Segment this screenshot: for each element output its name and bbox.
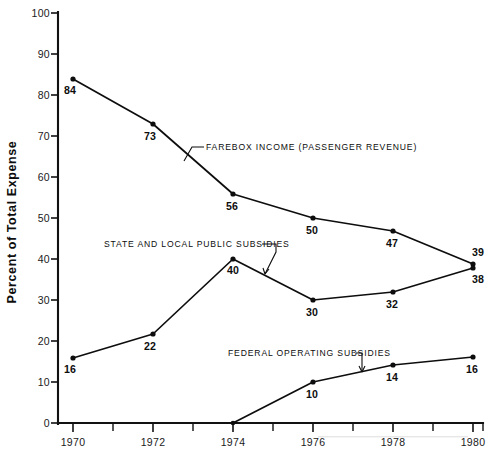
y-tick-label-20: 20 (38, 335, 50, 347)
x-tick-label-1970: 1970 (61, 436, 86, 448)
x-tick-label-1976: 1976 (301, 436, 326, 448)
y-tick-label-30: 30 (38, 294, 50, 306)
y-tick-label-10: 10 (38, 376, 50, 388)
data-point-label: 14 (386, 371, 398, 383)
farebox-annotation: FAREBOX INCOME (PASSENGER REVENUE) (184, 142, 417, 161)
data-point (230, 191, 235, 196)
data-point-label: 22 (144, 340, 156, 352)
data-point (150, 331, 155, 336)
data-point-label: 73 (144, 130, 156, 142)
data-point-label: 56 (226, 200, 238, 212)
line-chart: Percent of Total Expense 100 90 80 70 60… (0, 0, 494, 453)
data-point (231, 421, 236, 426)
y-tick-label-70: 70 (38, 130, 50, 142)
y-tick-label-90: 90 (38, 48, 50, 60)
state-local-subsidies-line (73, 259, 473, 358)
y-axis-title: Percent of Total Expense (5, 141, 19, 304)
y-tick-label-80: 80 (38, 89, 50, 101)
data-point-label: 30 (306, 306, 318, 318)
data-point (470, 265, 475, 270)
data-point-label: 50 (306, 224, 318, 236)
federal-subsidies-line (233, 357, 473, 423)
data-point (390, 362, 395, 367)
data-point (310, 215, 315, 220)
state-local-annotation: STATE AND LOCAL PUBLIC SUBSIDIES (104, 239, 290, 274)
x-tick-label-1974: 1974 (221, 436, 246, 448)
farebox-income-line (73, 79, 473, 264)
data-point (150, 121, 155, 126)
y-tick-label-100: 100 (32, 7, 50, 19)
data-point-label: 16 (64, 363, 76, 375)
farebox-annotation-label: FAREBOX INCOME (PASSENGER REVENUE) (206, 142, 417, 152)
data-point (70, 76, 75, 81)
data-point-label: 32 (386, 298, 398, 310)
x-axis-tick-labels: 1970 1972 1974 1976 1978 1980 (61, 436, 486, 448)
y-tick-label-0: 0 (44, 417, 50, 429)
data-point-label: 47 (386, 237, 398, 249)
data-point-label: 10 (306, 388, 318, 400)
data-point (70, 355, 75, 360)
data-point (310, 297, 315, 302)
x-tick-label-1972: 1972 (141, 436, 166, 448)
data-point-label: 38 (472, 273, 484, 285)
x-tick-label-1978: 1978 (381, 436, 406, 448)
data-point-label: 16 (466, 363, 478, 375)
series-federal-subsidies: 10 14 16 (231, 354, 478, 425)
federal-annotation: FEDERAL OPERATING SUBSIDIES (228, 348, 391, 372)
chart-container: Percent of Total Expense 100 90 80 70 60… (0, 0, 494, 453)
data-point (470, 354, 475, 359)
federal-annotation-label: FEDERAL OPERATING SUBSIDIES (228, 348, 391, 358)
data-point (230, 256, 235, 261)
data-point (390, 289, 395, 294)
data-point (390, 228, 395, 233)
y-tick-label-60: 60 (38, 171, 50, 183)
scan-artifact (318, 436, 468, 437)
y-tick-label-50: 50 (38, 212, 50, 224)
data-point-label: 40 (227, 264, 239, 276)
data-point-label: 39 (472, 246, 484, 258)
x-axis-ticks (73, 423, 483, 432)
data-point-label: 84 (64, 84, 76, 96)
y-tick-label-40: 40 (38, 253, 50, 265)
y-axis-tick-labels: 100 90 80 70 60 50 40 30 20 10 0 (32, 7, 50, 429)
x-tick-label-1980: 1980 (461, 436, 486, 448)
data-point (310, 379, 315, 384)
state-local-annotation-label: STATE AND LOCAL PUBLIC SUBSIDIES (104, 239, 290, 249)
